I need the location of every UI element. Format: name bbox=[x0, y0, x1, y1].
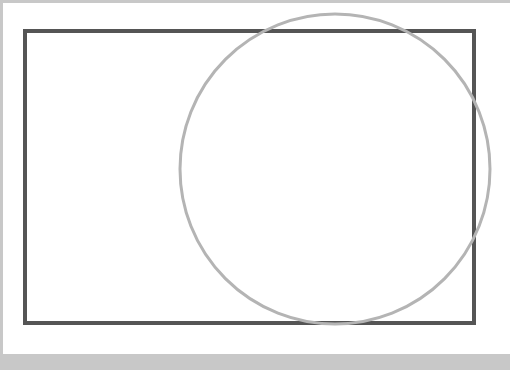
diagram-frame bbox=[0, 0, 510, 370]
circle-shape bbox=[180, 14, 490, 324]
rectangle-shape bbox=[25, 31, 474, 323]
shapes-layer bbox=[0, 0, 510, 370]
